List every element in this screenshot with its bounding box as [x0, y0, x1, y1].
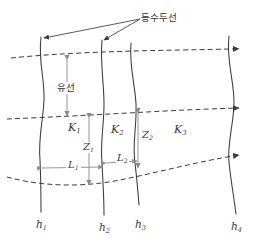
zone-k2-sub: 2 — [119, 129, 123, 137]
head-label-h1: h1 — [36, 219, 47, 231]
zone-k2-base: K — [111, 123, 119, 136]
equipotential-leader-lines — [44, 19, 140, 40]
equipotential-line-1 — [40, 37, 45, 212]
zone-label-k1: K1 — [68, 122, 81, 135]
depth-label-z2: Z2 — [141, 130, 154, 141]
depth-z2-base: Z — [142, 129, 149, 140]
head-h2-base: h — [99, 221, 106, 233]
head-label-h3: h3 — [135, 219, 146, 231]
depth-z1-base: Z — [83, 141, 90, 152]
length-label-l2: L2 — [116, 153, 129, 164]
depth-z2-sub: 2 — [149, 134, 153, 141]
head-h1-sub: 1 — [43, 224, 47, 232]
leader-line-left — [44, 19, 140, 38]
length-l1-base: L — [68, 159, 75, 170]
length-l1-sub: 1 — [75, 164, 79, 171]
head-label-h2: h2 — [99, 222, 110, 234]
flowline-label: 유선 — [55, 82, 77, 94]
length-label-l1: L1 — [66, 160, 81, 171]
depth-label-z1: Z1 — [82, 142, 95, 153]
length-l2-base: L — [117, 152, 124, 163]
head-h3-base: h — [135, 218, 142, 230]
length-l2-sub: 2 — [124, 157, 128, 164]
equipotential-line-4 — [228, 36, 236, 214]
head-h3-sub: 3 — [142, 224, 146, 232]
equipotential-line-2 — [101, 40, 104, 215]
head-h1-base: h — [36, 218, 43, 230]
flow-line-top — [11, 49, 239, 58]
equipotential-label: 등수두선 — [141, 13, 177, 23]
flow-net-svg — [0, 0, 257, 239]
zone-k1-base: K — [68, 121, 76, 134]
head-h4-sub: 4 — [238, 226, 242, 234]
flow-line-middle — [7, 108, 239, 119]
figure-canvas: 등수두선 유선 K1 K2 K3 Z1 Z2 L1 L2 h1 h2 h3 h4 — [0, 0, 257, 239]
depth-z1-sub: 1 — [90, 146, 94, 153]
head-h4-base: h — [231, 220, 238, 232]
zone-k3-sub: 3 — [182, 129, 186, 137]
zone-label-k2: K2 — [111, 124, 124, 137]
zone-label-k3: K3 — [174, 124, 187, 137]
zone-k1-sub: 1 — [76, 127, 80, 135]
zone-k3-base: K — [174, 123, 182, 136]
head-h2-sub: 2 — [106, 227, 110, 235]
head-label-h4: h4 — [231, 221, 242, 233]
